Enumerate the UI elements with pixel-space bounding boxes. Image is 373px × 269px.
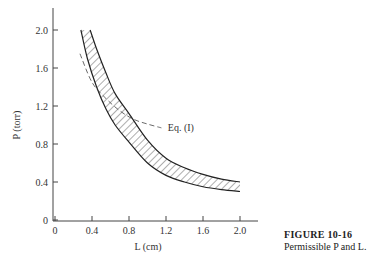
- figure-description: Permissible P and L.: [284, 241, 366, 253]
- x-tick-label: 1.6: [197, 225, 210, 236]
- x-tick-label: 0.4: [86, 225, 99, 236]
- x-tick-label: 2.0: [234, 225, 247, 236]
- figure-number: FIGURE 10-16: [284, 229, 366, 241]
- y-tick-label: 2.0: [36, 25, 49, 36]
- y-axis-label: P (torr): [11, 111, 23, 140]
- x-tick-label: 1.2: [160, 225, 173, 236]
- y-tick-label: 1.6: [36, 63, 49, 74]
- eq-i-label: Eq. (I): [168, 122, 194, 134]
- permissible-region: [81, 30, 240, 192]
- x-tick-label: 0.8: [123, 225, 136, 236]
- y-tick-label: 0.8: [36, 139, 49, 150]
- figure-caption: FIGURE 10-16 Permissible P and L.: [284, 229, 366, 253]
- x-axis-label: L (cm): [134, 241, 161, 253]
- y-tick-label: 1.2: [36, 101, 49, 112]
- x-tick-label: 0: [53, 225, 58, 236]
- y-tick-label: 0.4: [36, 177, 49, 188]
- y-tick-label: 0: [43, 215, 48, 226]
